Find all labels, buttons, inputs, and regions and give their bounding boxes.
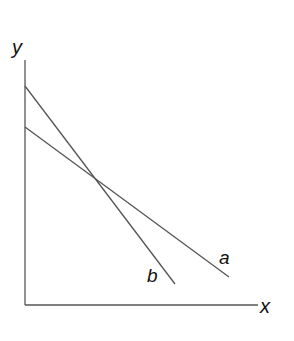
line-a [25,127,229,277]
x-axis-label: x [259,295,271,317]
line-a-label: a [219,247,230,268]
line-b [25,86,175,284]
diagram-canvas: y x a b [0,0,294,341]
diagram-svg: y x a b [0,0,294,341]
line-b-label: b [147,265,158,286]
y-axis-label: y [10,36,23,58]
